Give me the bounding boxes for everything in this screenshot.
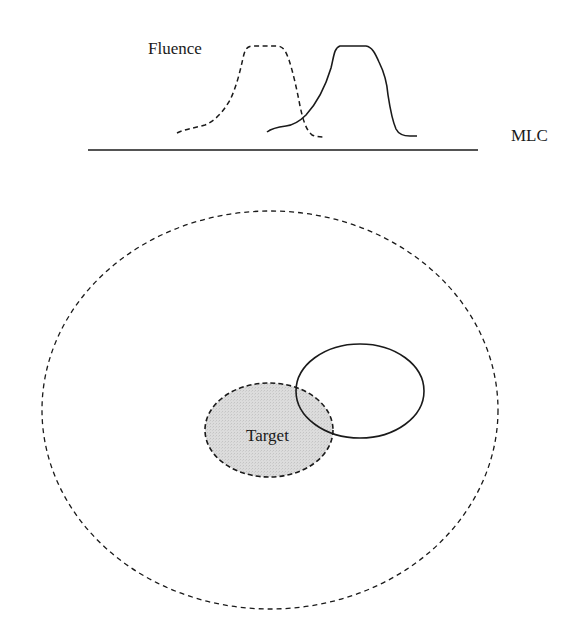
fluence-label: Fluence <box>148 40 202 57</box>
mlc-label: MLC <box>511 127 548 144</box>
target-label: Target <box>246 427 289 444</box>
fluence-profile-dashed <box>177 46 326 137</box>
fluence-target-diagram <box>0 0 581 634</box>
shifted-volume <box>296 344 424 438</box>
fluence-profile-solid <box>267 46 417 136</box>
